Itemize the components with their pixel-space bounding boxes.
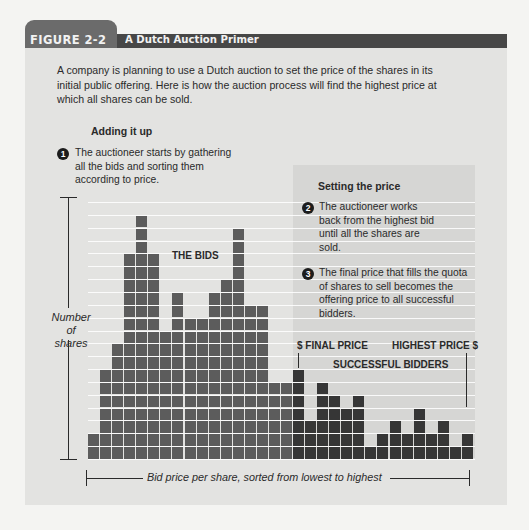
bid-cell: [197, 344, 208, 356]
bid-cell: [124, 409, 135, 421]
bid-cell: [245, 344, 256, 356]
bid-cell: [172, 357, 183, 369]
bid-cell: [148, 319, 159, 331]
step-3-badge: 3: [302, 268, 314, 280]
bid-cell: [233, 344, 244, 356]
bid-cell: [136, 242, 147, 254]
bid-cell: [209, 319, 220, 331]
bid-cell: [257, 396, 268, 408]
bid-cell: [281, 396, 292, 408]
bid-cell: [160, 332, 171, 344]
bid-cell: [197, 357, 208, 369]
bid-cell: [136, 409, 147, 421]
bid-cell: [245, 383, 256, 395]
bid-cell: [148, 370, 159, 382]
bid-cell: [100, 447, 111, 459]
bid-cell: [172, 383, 183, 395]
bid-cell: [245, 306, 256, 318]
x-axis-right-tick: [469, 470, 470, 486]
bid-cell: [245, 447, 256, 459]
bid-cell: [185, 421, 196, 433]
successful-bid-cell: [293, 434, 304, 446]
successful-bid-cell: [450, 447, 461, 459]
bid-cell: [245, 396, 256, 408]
bid-cell: [172, 293, 183, 305]
successful-bid-cell: [390, 434, 401, 446]
bid-cell: [124, 293, 135, 305]
adding-heading: Adding it up: [91, 125, 152, 137]
bid-cell: [209, 421, 220, 433]
gridline: [88, 459, 475, 460]
bid-cell: [124, 383, 135, 395]
successful-bid-cell: [414, 447, 425, 459]
bid-cell: [172, 447, 183, 459]
successful-bid-cell: [438, 421, 449, 433]
bid-cell: [185, 447, 196, 459]
bid-cell: [221, 344, 232, 356]
bid-cell: [112, 421, 123, 433]
bid-cell: [257, 434, 268, 446]
bid-cell: [136, 434, 147, 446]
bid-cell: [160, 344, 171, 356]
bid-cell: [257, 370, 268, 382]
bid-cell: [148, 383, 159, 395]
bid-cell: [221, 306, 232, 318]
bid-cell: [112, 383, 123, 395]
bid-cell: [245, 370, 256, 382]
successful-bid-cell: [462, 434, 473, 446]
bid-cell: [233, 293, 244, 305]
successful-bid-cell: [353, 409, 364, 421]
bid-cell: [124, 280, 135, 292]
bid-cell: [269, 434, 280, 446]
bid-cell: [112, 409, 123, 421]
successful-bid-cell: [329, 434, 340, 446]
bid-cell: [172, 306, 183, 318]
successful-bid-cell: [293, 396, 304, 408]
bid-cell: [124, 396, 135, 408]
bid-cell: [233, 396, 244, 408]
successful-bid-cell: [317, 409, 328, 421]
successful-bid-cell: [377, 434, 388, 446]
bid-cell: [209, 409, 220, 421]
bid-cell: [281, 383, 292, 395]
bid-cell: [124, 332, 135, 344]
bid-cell: [185, 396, 196, 408]
bid-cell: [136, 370, 147, 382]
successful-bid-cell: [341, 409, 352, 421]
bid-cell: [172, 409, 183, 421]
bid-cell: [124, 344, 135, 356]
bid-cell: [88, 447, 99, 459]
bid-cell: [100, 396, 111, 408]
step-1-text: The auctioneer starts by gathering all t…: [75, 146, 235, 187]
bid-cell: [221, 280, 232, 292]
successful-bid-cell: [353, 434, 364, 446]
bid-cell: [197, 434, 208, 446]
bid-cell: [185, 319, 196, 331]
bid-cell: [185, 344, 196, 356]
bid-cell: [172, 370, 183, 382]
successful-bid-cell: [426, 447, 437, 459]
bid-cell: [124, 370, 135, 382]
bid-cell: [233, 383, 244, 395]
bid-cell: [160, 370, 171, 382]
bid-cell: [221, 434, 232, 446]
bid-cell: [160, 447, 171, 459]
bid-cell: [257, 319, 268, 331]
bid-cell: [112, 344, 123, 356]
bid-cell: [172, 434, 183, 446]
successful-bid-cell: [293, 447, 304, 459]
bid-cell: [209, 293, 220, 305]
bid-cell: [245, 357, 256, 369]
bid-cell: [160, 421, 171, 433]
figure-label: FIGURE 2-2: [30, 33, 106, 47]
bid-cell: [148, 409, 159, 421]
bid-cell: [245, 421, 256, 433]
bid-cell: [185, 332, 196, 344]
bid-cell: [233, 229, 244, 241]
successful-bid-cell: [317, 421, 328, 433]
bid-cell: [197, 332, 208, 344]
bid-cell: [233, 370, 244, 382]
bid-cell: [172, 344, 183, 356]
bid-cell: [221, 293, 232, 305]
bid-cell: [257, 447, 268, 459]
